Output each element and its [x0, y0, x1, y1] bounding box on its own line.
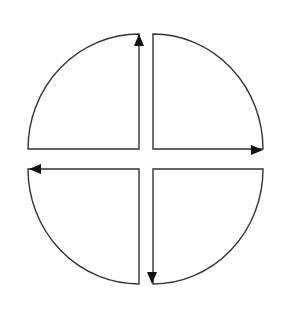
- quadrant-top-left: [28, 34, 144, 149]
- quadrant-bottom-left: [28, 164, 139, 284]
- quadrant-cycle-diagram: [0, 0, 286, 311]
- quadrant-bottom-right: [147, 169, 263, 284]
- quadrant-top-right: [153, 34, 263, 155]
